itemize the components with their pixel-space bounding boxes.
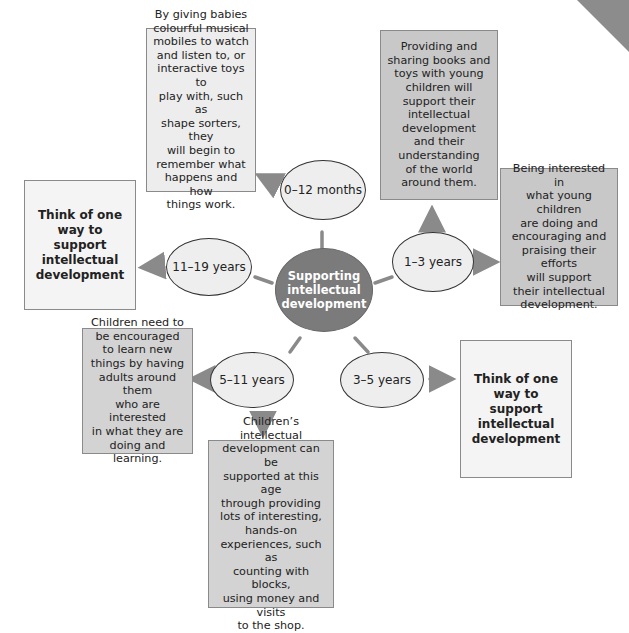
age-label: 3–5 years bbox=[353, 373, 411, 387]
school-handson-box: Children’s intellectual development can … bbox=[208, 440, 334, 608]
infant-activity-box: By giving babies colourful musical mobil… bbox=[146, 28, 256, 192]
age-label: 5–11 years bbox=[219, 373, 285, 387]
preschool-prompt-text: Think of one way to support intellectual… bbox=[472, 372, 561, 447]
age-node-0-12-months: 0–12 months bbox=[280, 160, 366, 220]
toddler-books-text: Providing and sharing books and toys wit… bbox=[388, 40, 491, 190]
infant-activity-text: By giving babies colourful musical mobil… bbox=[153, 8, 249, 212]
toddler-books-box: Providing and sharing books and toys wit… bbox=[380, 30, 498, 200]
age-label: 1–3 years bbox=[404, 255, 462, 269]
connector-center-to-3-5y bbox=[355, 338, 368, 352]
connector-center-to-5-11y bbox=[290, 338, 300, 352]
school-handson-text: Children’s intellectual development can … bbox=[215, 415, 327, 633]
central-topic-label: Supporting intellectual development bbox=[282, 269, 367, 311]
age-label: 0–12 months bbox=[284, 183, 362, 197]
school-encourage-box: Children need to be encouraged to learn … bbox=[82, 328, 193, 454]
age-node-11-19-years: 11–19 years bbox=[166, 238, 252, 296]
age-node-5-11-years: 5–11 years bbox=[210, 352, 294, 408]
age-label: 11–19 years bbox=[172, 260, 245, 274]
toddler-praise-box: Being interested in what young children … bbox=[500, 168, 618, 306]
age-node-3-5-years: 3–5 years bbox=[340, 352, 424, 408]
arrow-0-12m-to-box bbox=[264, 178, 278, 185]
adolescent-prompt-box: Think of one way to support intellectual… bbox=[24, 180, 136, 310]
connector-center-to-1-3y bbox=[375, 277, 392, 283]
preschool-prompt-box: Think of one way to support intellectual… bbox=[460, 340, 572, 478]
arrow-11-19y-to-prompt bbox=[148, 266, 160, 267]
toddler-praise-text: Being interested in what young children … bbox=[507, 162, 611, 312]
adolescent-prompt-text: Think of one way to support intellectual… bbox=[36, 208, 125, 283]
connector-center-to-11-19y bbox=[255, 277, 272, 283]
school-encourage-text: Children need to be encouraged to learn … bbox=[89, 316, 186, 466]
central-topic-node: Supporting intellectual development bbox=[275, 248, 373, 332]
age-node-1-3-years: 1–3 years bbox=[392, 232, 474, 292]
